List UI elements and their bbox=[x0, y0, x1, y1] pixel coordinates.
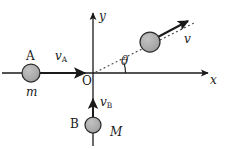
ball-b-mass-label: M bbox=[110, 126, 122, 138]
velocity-a-label: vA bbox=[55, 50, 67, 63]
velocity-b-subscript: B bbox=[107, 101, 112, 110]
x-axis-label: x bbox=[210, 74, 217, 86]
velocity-a-subscript: A bbox=[62, 55, 67, 64]
ball-a-mass-label: m bbox=[26, 86, 37, 98]
origin-label: O bbox=[82, 75, 92, 87]
velocity-combined-label: v bbox=[184, 33, 191, 45]
ball-combined bbox=[140, 32, 160, 52]
physics-diagram: A m vA O vB B M θ v y x bbox=[0, 0, 231, 149]
ball-a-name-label: A bbox=[26, 50, 35, 62]
ball-b-name-label: B bbox=[70, 118, 79, 130]
velocity-b-symbol: v bbox=[100, 95, 107, 109]
velocity-a-symbol: v bbox=[55, 49, 62, 63]
velocity-b-label: vB bbox=[100, 96, 112, 109]
ball-b bbox=[85, 117, 101, 133]
theta-angle-label: θ bbox=[121, 55, 128, 67]
y-axis-label: y bbox=[99, 10, 106, 22]
ball-a bbox=[22, 64, 40, 82]
